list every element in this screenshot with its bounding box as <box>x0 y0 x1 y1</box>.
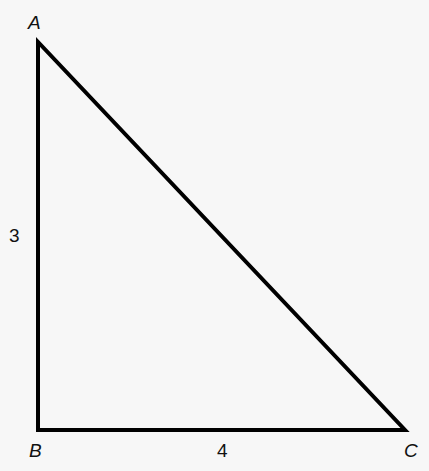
side-label-bc: 4 <box>217 440 228 462</box>
vertex-label-a: A <box>28 12 41 34</box>
triangle-abc <box>38 42 405 430</box>
side-label-ab: 3 <box>9 225 20 247</box>
vertex-label-c: C <box>404 440 418 462</box>
vertex-label-b: B <box>29 440 42 462</box>
triangle-figure <box>0 0 429 471</box>
